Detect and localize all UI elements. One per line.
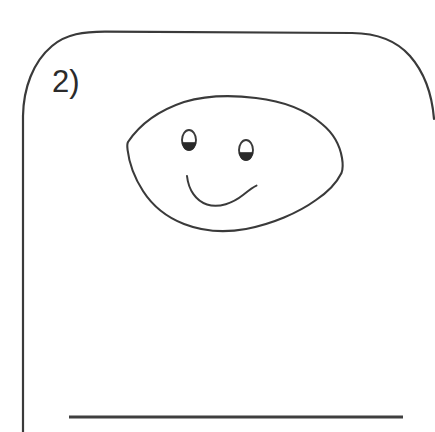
question-number-label: 2) [52, 66, 80, 97]
right-eye [239, 140, 253, 160]
left-eye [182, 130, 196, 150]
worksheet-page: 2) [0, 0, 435, 432]
